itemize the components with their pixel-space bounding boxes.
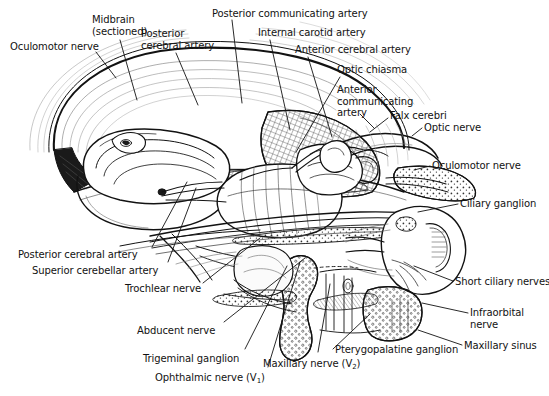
label-oculomotor-nerve-left: Oculomotor nerve [10, 41, 99, 53]
label-internal-carotid-artery: Internal carotid artery [258, 27, 366, 39]
label-oculomotor-nerve-right: Oculomotor nerve [432, 160, 521, 172]
label-infraorbital-nerve: Infraorbital nerve [470, 307, 524, 330]
label-pterygopalatine-ganglion: Pterygopalatine ganglion [335, 344, 458, 356]
label-posterior-communicating-artery: Posterior communicating artery [212, 8, 367, 20]
label-maxillary-nerve: Maxillary nerve (V2) [263, 358, 360, 372]
orbit-eyeball [344, 206, 466, 294]
label-trochlear-nerve: Trochlear nerve [125, 283, 201, 295]
label-falx-cerebri: Falx cerebri [390, 110, 447, 122]
label-abducent-nerve: Abducent nerve [137, 325, 215, 337]
label-maxillary-nerve-subscript: 2 [352, 363, 356, 371]
label-trigeminal-ganglion: Trigeminal ganglion [143, 353, 239, 365]
label-ophthalmic-nerve-subscript: 1 [257, 377, 261, 385]
label-posterior-cerebral-artery-top: Posterior cerebral artery [141, 28, 214, 51]
label-ciliary-ganglion: Ciliary ganglion [460, 198, 536, 210]
maxillary-sinus-region [314, 287, 423, 341]
label-optic-nerve: Optic nerve [424, 122, 481, 134]
label-short-ciliary-nerves: Short ciliary nerves [455, 276, 549, 288]
label-optic-chiasma: Optic chiasma [337, 64, 407, 76]
illustration-linework [30, 22, 476, 360]
label-midbrain-sectioned: Midbrain (sectioned) [92, 14, 147, 37]
label-posterior-cerebral-artery-bottom: Posterior cerebral artery [18, 249, 137, 261]
label-ophthalmic-nerve: Ophthalmic nerve (V1) [155, 372, 265, 386]
anatomy-figure: Oculomotor nerveMidbrain (sectioned)Post… [0, 0, 549, 396]
trigeminal-ganglion-region [160, 234, 297, 312]
midbrain-sectioned-structure [77, 129, 230, 230]
label-superior-cerebellar-artery: Superior cerebellar artery [32, 265, 158, 277]
label-maxillary-sinus: Maxillary sinus [464, 340, 537, 352]
label-anterior-cerebral-artery: Anterior cerebral artery [295, 44, 411, 56]
